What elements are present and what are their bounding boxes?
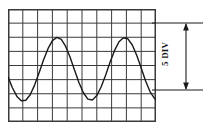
arrowhead-up: [183, 23, 189, 31]
graticule: [8, 9, 156, 122]
oscilloscope-figure: 5 DIV: [0, 0, 207, 135]
sine-waveform-trace: [8, 9, 156, 122]
division-span-label: 5 DIV: [161, 50, 191, 66]
arrowhead-down: [183, 83, 189, 91]
